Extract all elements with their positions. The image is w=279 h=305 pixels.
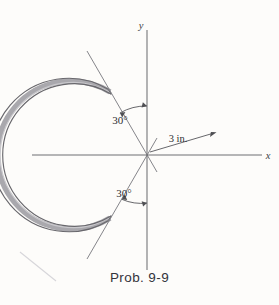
radius-leader-arrow (210, 132, 217, 137)
y-axis-label: y (138, 20, 144, 31)
figure-drawing-canvas: y x 30° 30° 3 in. (0, 0, 279, 305)
upper-angle-arrow-end (142, 102, 147, 107)
figure-caption: Prob. 9-9 (0, 270, 279, 285)
problem-figure: y x 30° 30° 3 in. Prob. 9-9 (0, 0, 279, 305)
upper-angle-label: 30° (112, 114, 127, 126)
lower-angle-arrow-end (142, 201, 147, 206)
radius-dimension-label: 3 in. (169, 133, 188, 144)
x-axis-label: x (265, 150, 271, 161)
lower-angle-label: 30° (116, 187, 131, 199)
